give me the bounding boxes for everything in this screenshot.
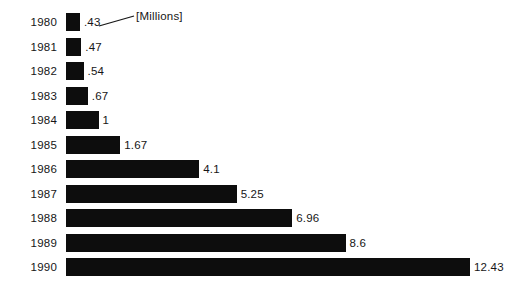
bar-1990 (66, 258, 470, 276)
category-label-1981: 1981 (0, 38, 57, 56)
value-label-1989: 8.6 (350, 234, 367, 252)
bar-1987 (66, 185, 237, 203)
value-label-1983: .67 (92, 87, 109, 105)
bar-row: 19851.67 (0, 136, 520, 154)
value-label-1987: 5.25 (241, 185, 264, 203)
bar-row: 1980.43 (0, 13, 520, 31)
bar-row: 19841 (0, 111, 520, 129)
bar-row: 19875.25 (0, 185, 520, 203)
bar-fill (66, 258, 470, 276)
bar-1981 (66, 38, 81, 56)
bar-1980 (66, 13, 80, 31)
bar-fill (66, 38, 81, 56)
bar-1988 (66, 209, 292, 227)
bar-1984 (66, 111, 99, 129)
bar-1982 (66, 62, 84, 80)
category-label-1990: 1990 (0, 258, 57, 276)
category-label-1988: 1988 (0, 209, 57, 227)
bar-row: 1983.67 (0, 87, 520, 105)
category-label-1984: 1984 (0, 111, 57, 129)
bar-row: 199012.43 (0, 258, 520, 276)
value-label-1980: .43 (84, 13, 101, 31)
bar-row: 19886.96 (0, 209, 520, 227)
bar-row: 1982.54 (0, 62, 520, 80)
category-label-1989: 1989 (0, 234, 57, 252)
bar-fill (66, 185, 237, 203)
value-label-1990: 12.43 (474, 258, 504, 276)
bar-fill (66, 87, 88, 105)
value-label-1984: 1 (103, 111, 110, 129)
bar-1986 (66, 160, 199, 178)
bar-1985 (66, 136, 120, 154)
bar-fill (66, 13, 80, 31)
bar-fill (66, 160, 199, 178)
bar-fill (66, 136, 120, 154)
bar-chart: [Millions] 1980.431981.471982.541983.671… (0, 0, 520, 290)
bar-fill (66, 209, 292, 227)
bar-row: 19898.6 (0, 234, 520, 252)
category-label-1985: 1985 (0, 136, 57, 154)
value-label-1988: 6.96 (296, 209, 319, 227)
bar-fill (66, 111, 99, 129)
value-label-1985: 1.67 (124, 136, 147, 154)
category-label-1986: 1986 (0, 160, 57, 178)
category-label-1982: 1982 (0, 62, 57, 80)
value-label-1981: .47 (85, 38, 102, 56)
bar-1983 (66, 87, 88, 105)
bar-fill (66, 234, 346, 252)
category-label-1980: 1980 (0, 13, 57, 31)
category-label-1987: 1987 (0, 185, 57, 203)
category-label-1983: 1983 (0, 87, 57, 105)
value-label-1986: 4.1 (203, 160, 220, 178)
bar-row: 19864.1 (0, 160, 520, 178)
value-label-1982: .54 (88, 62, 105, 80)
bar-row: 1981.47 (0, 38, 520, 56)
bar-fill (66, 62, 84, 80)
bar-1989 (66, 234, 346, 252)
